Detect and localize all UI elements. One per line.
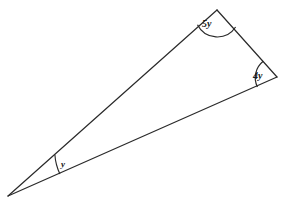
top-to-right-edge <box>217 10 277 77</box>
left-angle-arc <box>55 155 60 174</box>
triangle-drawing <box>0 0 285 205</box>
left-to-top-edge <box>8 10 217 196</box>
top-angle-label: 5y <box>202 19 211 29</box>
left-angle-label: y <box>61 160 65 169</box>
right-to-left-edge <box>8 77 277 196</box>
right-angle-label: 4y <box>253 71 262 81</box>
triangle-figure: · · · 5y 4y y <box>0 0 285 205</box>
